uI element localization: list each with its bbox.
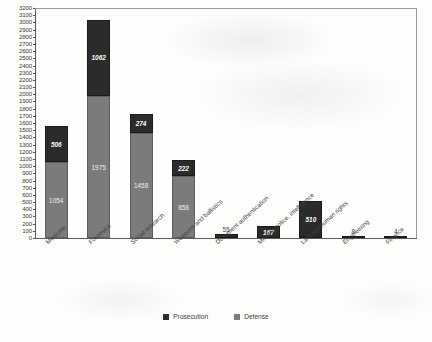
legend-swatch-icon [163, 314, 169, 320]
legend-item[interactable]: Defense [234, 313, 269, 320]
bar-group: 10621975 [87, 20, 110, 238]
bar-value-label: 506 [51, 141, 62, 148]
bar-value-label: 510 [306, 216, 317, 223]
bar-value-label: 1062 [92, 54, 106, 61]
chart-legend: ProsecutionDefense [0, 313, 432, 320]
bar-segment-prosecution: 222 [172, 160, 195, 176]
stacked-bar-chart: 3200310030002900280027002600250024002300… [0, 0, 432, 342]
bar-value-label: 222 [178, 165, 189, 172]
legend-label: Prosecution [173, 313, 208, 320]
bar-segment-prosecution: 274 [130, 114, 153, 134]
bar-segment-prosecution: 506 [45, 126, 68, 162]
bar-value-label: 1975 [92, 164, 106, 171]
bar-series-container: 50610541062197527414582228585516751084 [35, 8, 417, 238]
x-axis-labels: MedicineForensicsSocial researchWeapons … [35, 240, 417, 305]
y-axis-tick-label: 0 [29, 235, 32, 241]
bar-group: 2741458 [130, 114, 153, 238]
bar-value-label: 1054 [49, 197, 63, 204]
bar-value-label: 274 [136, 120, 147, 127]
plot-area: 3200310030002900280027002600250024002300… [35, 8, 417, 238]
bar-segment-prosecution: 1062 [87, 20, 110, 96]
bar-value-label: 858 [178, 204, 189, 211]
legend-label: Defense [244, 313, 269, 320]
legend-swatch-icon [234, 314, 240, 320]
bar-value-label: 1458 [134, 182, 148, 189]
y-axis-tick-mark [33, 238, 36, 239]
bar-segment-defense: 1975 [87, 96, 110, 238]
legend-item[interactable]: Prosecution [163, 313, 208, 320]
bar-group: 5061054 [45, 126, 68, 238]
